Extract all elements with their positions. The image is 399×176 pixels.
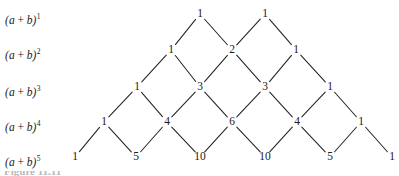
coefficient-node: 4 bbox=[164, 116, 170, 128]
coefficient-node: 10 bbox=[259, 151, 271, 163]
connector-line bbox=[270, 92, 293, 117]
connector-line bbox=[142, 55, 167, 82]
connector-line bbox=[270, 127, 293, 152]
label-exponent: 3 bbox=[37, 84, 41, 93]
connector-line bbox=[109, 92, 132, 117]
connector-line bbox=[175, 19, 195, 44]
connector-line bbox=[237, 127, 260, 152]
figure-caption-text: Figure 11.11 bbox=[4, 171, 61, 176]
connector-line bbox=[301, 55, 326, 82]
label-base: (a bbox=[5, 49, 15, 61]
connector-line bbox=[141, 127, 163, 152]
connector-line bbox=[109, 127, 132, 152]
coefficient-node: 4 bbox=[294, 116, 300, 128]
connector-line bbox=[172, 127, 195, 152]
label-base: (a bbox=[5, 156, 15, 168]
pascals-triangle-figure: (a+b)1(a+b)2(a+b)3(a+b)4(a+b)5 111211331… bbox=[0, 0, 399, 176]
figure-caption-clipped: Figure 11.11 bbox=[4, 171, 184, 176]
label-exponent: 2 bbox=[37, 47, 41, 56]
label-plus-operator: + bbox=[15, 14, 27, 26]
coefficient-node: 1 bbox=[389, 151, 395, 163]
label-exponent: 5 bbox=[37, 154, 41, 163]
label-plus-operator: + bbox=[15, 121, 27, 133]
row-label-5: (a+b)5 bbox=[5, 157, 41, 169]
row-label-4: (a+b)4 bbox=[5, 122, 41, 134]
connector-line bbox=[142, 92, 163, 116]
label-variable: b) bbox=[27, 156, 37, 168]
connector-line bbox=[366, 127, 388, 152]
label-base: (a bbox=[5, 14, 15, 26]
row-label-2: (a+b)2 bbox=[5, 50, 41, 62]
connector-line bbox=[172, 92, 195, 117]
coefficient-node: 1 bbox=[293, 44, 299, 56]
label-plus-operator: + bbox=[15, 49, 27, 61]
coefficient-node: 3 bbox=[197, 81, 203, 93]
connector-line bbox=[205, 92, 228, 117]
connector-line bbox=[335, 127, 357, 152]
coefficient-node: 10 bbox=[194, 151, 206, 163]
coefficient-node: 1 bbox=[101, 116, 107, 128]
row-label-1: (a+b)1 bbox=[5, 15, 41, 27]
coefficient-node: 1 bbox=[197, 8, 203, 20]
coefficient-node: 5 bbox=[327, 151, 333, 163]
label-exponent: 1 bbox=[37, 12, 41, 21]
coefficient-node: 5 bbox=[133, 151, 139, 163]
label-base: (a bbox=[5, 121, 15, 133]
coefficient-node: 1 bbox=[358, 116, 364, 128]
coefficient-node: 1 bbox=[327, 81, 333, 93]
label-base: (a bbox=[5, 86, 15, 98]
coefficient-node: 6 bbox=[229, 116, 235, 128]
connector-line bbox=[205, 55, 228, 81]
coefficient-node: 1 bbox=[168, 44, 174, 56]
connector-line bbox=[205, 19, 228, 45]
connector-line bbox=[270, 19, 292, 44]
connector-line bbox=[335, 92, 357, 117]
connector-line bbox=[79, 127, 99, 151]
row-label-3: (a+b)3 bbox=[5, 87, 41, 99]
connector-line bbox=[302, 127, 325, 152]
connector-line bbox=[237, 55, 261, 82]
connector-line bbox=[205, 127, 228, 152]
coefficient-node: 2 bbox=[229, 44, 235, 56]
connector-line bbox=[237, 19, 261, 45]
connector-line bbox=[270, 55, 292, 81]
label-variable: b) bbox=[27, 49, 37, 61]
label-plus-operator: + bbox=[15, 156, 27, 168]
label-variable: b) bbox=[27, 14, 37, 26]
connector-line bbox=[175, 56, 195, 82]
label-exponent: 4 bbox=[37, 119, 41, 128]
label-variable: b) bbox=[27, 86, 37, 98]
coefficient-node: 1 bbox=[72, 151, 78, 163]
label-plus-operator: + bbox=[15, 86, 27, 98]
connector-line bbox=[237, 92, 260, 117]
label-variable: b) bbox=[27, 121, 37, 133]
coefficient-node: 1 bbox=[134, 81, 140, 93]
coefficient-node: 1 bbox=[262, 8, 268, 20]
coefficient-node: 3 bbox=[262, 81, 268, 93]
connector-line bbox=[302, 92, 325, 117]
